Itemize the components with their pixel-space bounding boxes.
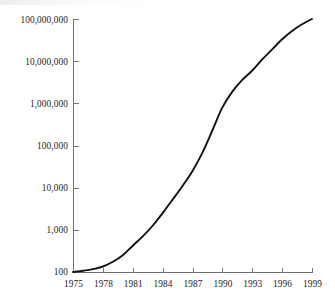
growth-curve-line [73,19,312,272]
y-tick-marks [74,20,79,273]
y-tick-label: 10,000 [42,183,68,193]
x-tick-label: 1975 [64,279,83,289]
line-chart-svg: 100,000,000 10,000,000 1,000,000 100,000… [0,0,335,302]
x-tick-label: 1999 [303,279,322,289]
y-tick-label: 100,000,000 [20,15,68,25]
x-tick-label: 1990 [213,279,232,289]
x-tick-label: 1981 [124,279,143,289]
x-tick-label: 1996 [273,279,292,289]
y-tick-label: 10,000,000 [25,57,68,67]
x-tick-label: 1984 [154,279,173,289]
x-tick-marks [74,268,313,273]
plot-area: 100,000,000 10,000,000 1,000,000 100,000… [0,0,335,302]
chart-root: 100,000,000 10,000,000 1,000,000 100,000… [0,0,335,302]
y-tick-label: 100,000 [37,141,68,151]
x-tick-label: 1993 [243,279,262,289]
x-tick-labels: 1975 1978 1981 1984 1987 1990 1993 1996 … [64,279,322,289]
y-tick-label: 100 [54,267,68,277]
y-tick-labels: 100,000,000 10,000,000 1,000,000 100,000… [20,15,68,278]
y-tick-label: 1,000,000 [30,99,68,109]
x-tick-label: 1987 [184,279,203,289]
x-tick-label: 1978 [94,279,113,289]
y-tick-label: 1,000 [47,225,69,235]
